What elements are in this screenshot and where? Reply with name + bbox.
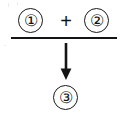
circled-number-2: ② [84, 8, 109, 33]
circled-number-1-label: ① [24, 12, 38, 28]
scan-artifact [4, 45, 6, 46]
plus-operator: + [56, 10, 76, 32]
scan-artifact [8, 3, 9, 7]
circled-number-3: ③ [53, 85, 78, 110]
circled-number-1: ① [18, 8, 43, 33]
down-arrow-icon [56, 43, 76, 81]
horizontal-rule [11, 37, 117, 39]
scan-artifact [17, 2, 18, 5]
circled-number-3-label: ③ [59, 89, 73, 105]
reaction-diagram: ① + ② ③ [0, 0, 126, 113]
circled-number-2-label: ② [90, 12, 104, 28]
